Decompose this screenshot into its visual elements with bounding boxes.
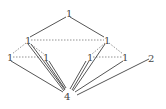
edge-top-right-mid	[70, 17, 104, 37]
node-far-right: 1	[122, 52, 128, 63]
graph-diagram: 1 1 1 1 1 1 1 2 4	[0, 0, 166, 109]
edge-right-mid-far-right	[109, 43, 123, 54]
node-right-mid: 1	[104, 35, 110, 46]
edge-top-left-mid	[30, 17, 66, 37]
edge-right-inner-bottom-b	[72, 61, 89, 90]
edge-left-mid-far-left	[12, 43, 26, 54]
edge-left-inner-bottom-a	[46, 61, 65, 89]
node-right-inner: 1	[87, 52, 93, 63]
edge-far-right-bottom	[75, 61, 123, 92]
edge-two-bottom	[77, 59, 149, 95]
node-top: 1	[66, 8, 72, 19]
node-left-mid: 1	[25, 35, 31, 46]
node-left-inner: 1	[43, 52, 49, 63]
node-two: 2	[148, 53, 154, 64]
node-far-left: 1	[7, 52, 13, 63]
node-bottom: 4	[64, 91, 70, 102]
